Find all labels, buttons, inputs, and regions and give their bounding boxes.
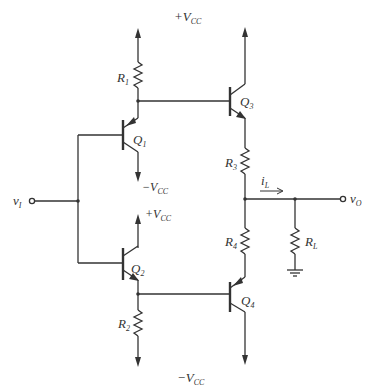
supply-arrow-icon <box>135 172 141 182</box>
rl-label: RL <box>304 234 318 251</box>
output-label: vO <box>350 191 362 208</box>
resistor-r3 <box>241 148 249 174</box>
supply-arrow-icon <box>242 27 248 37</box>
load-branch <box>287 199 303 276</box>
resistor-r4 <box>241 228 249 254</box>
top-supply-label: +VCC <box>174 9 202 26</box>
transistor-q4 <box>230 277 248 365</box>
q2-supply-label: +VCC <box>145 207 172 223</box>
emitter-arrow-icon <box>126 117 136 126</box>
circuit-diagram: +VCC R1 Q1 −VCC vI <box>0 0 378 392</box>
input-network <box>29 135 123 263</box>
supply-arrow-icon <box>135 28 141 38</box>
current-label: iL <box>261 173 270 190</box>
schematic: +VCC R1 Q1 −VCC vI <box>0 0 378 392</box>
q1-supply-label: −VCC <box>142 180 169 196</box>
q3-label: Q3 <box>240 94 253 111</box>
transistor-q1 <box>78 117 141 182</box>
resistor-r1 <box>134 62 142 88</box>
q2-label: Q2 <box>131 261 144 278</box>
resistor-r2 <box>134 310 142 336</box>
resistor-rl <box>291 228 299 254</box>
supply-arrow-icon <box>242 355 248 365</box>
r4-label: R4 <box>224 234 237 251</box>
r4-branch <box>241 228 249 277</box>
q1-label: Q1 <box>133 132 146 149</box>
r3-label: R3 <box>224 155 237 172</box>
transistor-q3 <box>230 27 248 148</box>
r2-branch <box>134 310 142 367</box>
emitter-arrow-icon <box>236 111 246 119</box>
bottom-supply-label: −VCC <box>177 370 205 387</box>
r1-label: R1 <box>116 70 129 87</box>
junction-node <box>76 199 80 203</box>
output-terminal <box>340 196 345 201</box>
r2-label: R2 <box>117 316 130 333</box>
r1-branch <box>134 28 230 118</box>
supply-arrow-icon <box>135 357 141 367</box>
supply-arrow-icon <box>135 214 141 224</box>
input-terminal <box>29 198 34 203</box>
emitter-arrow-icon <box>233 277 243 286</box>
ground-icon <box>287 270 303 276</box>
input-label: vI <box>13 193 22 210</box>
r3-branch <box>241 148 249 228</box>
q4-label: Q4 <box>241 293 254 310</box>
